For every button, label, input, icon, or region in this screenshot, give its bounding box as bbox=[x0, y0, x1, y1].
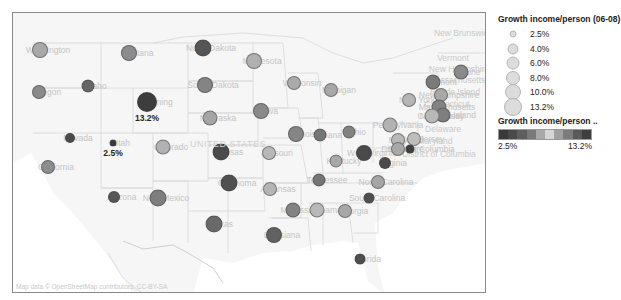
state-bubble[interactable] bbox=[287, 76, 301, 90]
size-legend-circle-icon bbox=[506, 71, 520, 85]
state-label: South Dakota bbox=[187, 80, 239, 90]
state-label: South Carolina bbox=[349, 193, 405, 203]
state-bubble[interactable] bbox=[324, 83, 338, 97]
state-bubble[interactable] bbox=[343, 126, 356, 139]
size-legend-label: 6.0% bbox=[530, 58, 549, 68]
state-bubble[interactable] bbox=[156, 140, 171, 155]
state-bubble[interactable] bbox=[221, 175, 238, 192]
state-bubble[interactable] bbox=[32, 85, 46, 99]
size-legend-label: 13.2% bbox=[530, 102, 554, 112]
state-bubble[interactable] bbox=[206, 216, 223, 233]
map-visualization: Growth Income/Person — Average Growth Ra… bbox=[0, 0, 621, 300]
state-bubble[interactable] bbox=[197, 77, 213, 93]
region-label: Delaware bbox=[425, 124, 461, 134]
state-bubble[interactable] bbox=[266, 227, 282, 243]
state-bubble[interactable] bbox=[425, 109, 440, 124]
state-bubble[interactable] bbox=[253, 103, 269, 119]
state-bubble[interactable] bbox=[313, 174, 326, 187]
map-canvas[interactable]: WashingtonOregonCaliforniaNevadaIdahoMon… bbox=[12, 12, 486, 293]
size-legend-label: 10.0% bbox=[530, 87, 554, 97]
gradient-stop bbox=[499, 130, 508, 139]
state-bubble[interactable] bbox=[288, 126, 304, 142]
state-bubble[interactable] bbox=[364, 193, 375, 204]
state-bubble[interactable] bbox=[406, 145, 415, 154]
size-legend-item: 2.5% bbox=[498, 27, 620, 42]
state-bubble[interactable] bbox=[338, 204, 352, 218]
size-legend-item: 8.0% bbox=[498, 71, 620, 86]
color-legend-max: 13.2% bbox=[568, 141, 592, 151]
state-label: Pennsylvania bbox=[373, 120, 424, 130]
size-legend-item: 6.0% bbox=[498, 56, 620, 71]
size-legend-circle-icon bbox=[510, 31, 517, 38]
state-bubble[interactable] bbox=[263, 182, 277, 196]
state-bubble[interactable] bbox=[195, 40, 212, 57]
color-gradient-bar bbox=[498, 129, 592, 140]
bubble-value-label: 13.2% bbox=[135, 113, 159, 123]
region-label: New Brunswick bbox=[434, 28, 486, 38]
size-legend-label: 8.0% bbox=[530, 73, 549, 83]
gradient-stop bbox=[536, 130, 545, 139]
gradient-stop bbox=[554, 130, 563, 139]
state-bubble[interactable] bbox=[310, 203, 325, 218]
state-bubble[interactable] bbox=[402, 93, 416, 107]
size-legend-item: 4.0% bbox=[498, 42, 620, 57]
state-bubble[interactable] bbox=[65, 133, 75, 143]
state-bubble[interactable] bbox=[383, 118, 398, 133]
state-bubble[interactable] bbox=[454, 65, 469, 80]
state-bubble[interactable] bbox=[150, 190, 167, 207]
gradient-stop bbox=[545, 130, 554, 139]
region-label: Vermont bbox=[437, 53, 469, 63]
state-bubble[interactable] bbox=[203, 111, 218, 126]
state-bubble[interactable] bbox=[137, 92, 157, 112]
gradient-stop bbox=[573, 130, 582, 139]
state-bubble[interactable] bbox=[371, 175, 385, 189]
size-legend: Growth income/person (06-08) 2.5%4.0%6.0… bbox=[498, 14, 620, 114]
state-bubble[interactable] bbox=[314, 129, 327, 142]
color-legend: Growth income/person .. 2.5% 13.2% bbox=[498, 116, 618, 151]
size-legend-title: Growth income/person (06-08) bbox=[498, 14, 620, 24]
state-bubble[interactable] bbox=[41, 160, 55, 174]
gradient-stop bbox=[508, 130, 517, 139]
gradient-stop bbox=[582, 130, 591, 139]
country-label: UNITED STATES bbox=[190, 139, 266, 149]
map-attribution[interactable]: Map data © OpenStreetMap contributors, C… bbox=[16, 283, 167, 290]
bubble-value-label: 2.5% bbox=[103, 148, 122, 158]
size-legend-item: 13.2% bbox=[498, 100, 620, 115]
state-label: North Carolina bbox=[359, 177, 414, 187]
state-bubble[interactable] bbox=[110, 140, 117, 147]
gradient-stop bbox=[517, 130, 526, 139]
size-legend-circle-icon bbox=[507, 57, 520, 70]
state-bubble[interactable] bbox=[330, 155, 343, 168]
color-legend-min: 2.5% bbox=[498, 141, 517, 151]
size-legend-circle-icon bbox=[504, 98, 522, 116]
state-bubble[interactable] bbox=[108, 191, 120, 203]
size-legend-circle-icon bbox=[508, 43, 519, 54]
state-bubble[interactable] bbox=[355, 254, 366, 265]
state-bubble[interactable] bbox=[32, 42, 48, 58]
state-bubble[interactable] bbox=[356, 145, 372, 161]
state-bubble[interactable] bbox=[121, 45, 137, 61]
color-legend-title: Growth income/person .. bbox=[498, 116, 618, 126]
state-bubble[interactable] bbox=[82, 80, 95, 93]
state-bubble[interactable] bbox=[246, 53, 262, 69]
state-bubble[interactable] bbox=[286, 203, 301, 218]
gradient-stop bbox=[527, 130, 536, 139]
state-bubble[interactable] bbox=[391, 142, 405, 156]
size-legend-item: 10.0% bbox=[498, 85, 620, 100]
state-bubble[interactable] bbox=[379, 157, 391, 169]
gradient-stop bbox=[563, 130, 572, 139]
size-legend-label: 2.5% bbox=[530, 29, 549, 39]
size-legend-label: 4.0% bbox=[530, 44, 549, 54]
region-label: Maryland bbox=[418, 136, 453, 146]
